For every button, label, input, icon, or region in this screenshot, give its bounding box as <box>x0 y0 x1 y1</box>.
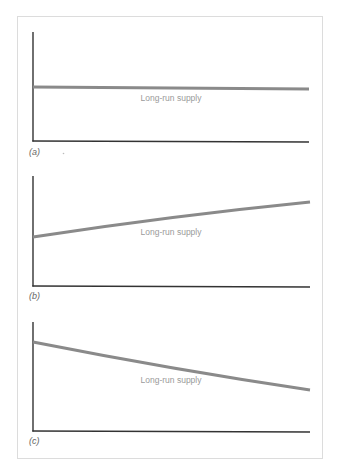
panel-label-b: (b) <box>29 291 40 301</box>
panel-a <box>32 32 309 142</box>
long-run-supply-line <box>33 87 309 89</box>
curve-label-b: Long-run supply <box>141 227 202 237</box>
curve-label-a: Long-run supply <box>141 93 202 103</box>
x-axis <box>32 141 309 142</box>
x-axis <box>32 286 310 287</box>
supply-curves-figure <box>0 0 338 476</box>
stray-dot <box>63 153 65 155</box>
panel-label-a: (a) <box>29 147 40 157</box>
curve-label-c: Long-run supply <box>141 375 202 385</box>
panel-label-c: (c) <box>29 436 40 446</box>
x-axis <box>32 431 310 432</box>
